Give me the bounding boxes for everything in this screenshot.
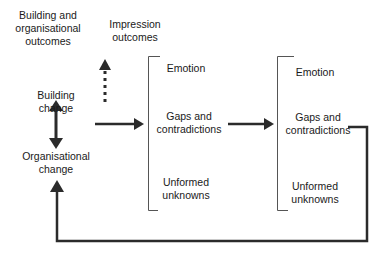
impression-outcomes-label: Impression outcomes [100,18,170,44]
organisational-change-label: Organisational change [6,150,106,176]
building-organisational-outcomes-label: Building and organisational outcomes [8,9,88,48]
group2-gaps: Gaps and contradictions [280,111,356,137]
arrow-to-group2-icon [228,118,274,130]
arrow-to-group1-icon [95,118,144,130]
group2-emotion: Emotion [280,66,350,79]
group2-unknowns: Unformed unknowns [280,180,350,206]
building-change-label: Building change [16,89,96,115]
group1-emotion: Emotion [150,62,222,75]
group1-unknowns: Unformed unknowns [150,176,222,202]
group1-gaps: Gaps and contradictions [150,110,228,136]
dotted-arrow-icon [99,59,111,102]
